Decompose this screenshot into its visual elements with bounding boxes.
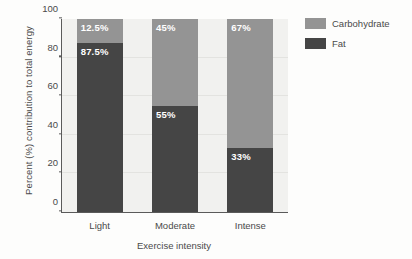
bar-segment-carbohydrate: 45% [152, 19, 198, 106]
legend-swatch [305, 18, 326, 29]
x-tick-label: Moderate [155, 220, 195, 231]
y-tick-label: 100 [42, 3, 58, 14]
y-tick-label: 60 [47, 80, 58, 91]
bar-intense: 67%33% [227, 19, 273, 212]
y-tick-mark [59, 210, 62, 211]
segment-value-label: 45% [156, 22, 176, 33]
plot-area: 020406080100 12.5%87.5%45%55%67%33% Ligh… [61, 19, 288, 213]
y-axis-title: Percent (%) contribution to total energy [23, 11, 34, 211]
y-tick-mark [59, 17, 62, 18]
segment-value-label: 87.5% [81, 46, 109, 57]
x-axis-title: Exercise intensity [61, 240, 287, 251]
legend-label: Fat [332, 38, 346, 49]
x-tick-label: Intense [235, 220, 266, 231]
bar-segment-carbohydrate: 67% [227, 19, 273, 148]
y-tick-label: 20 [47, 157, 58, 168]
bar-segment-fat: 33% [227, 148, 273, 212]
chart-figure: Percent (%) contribution to total energy… [0, 0, 412, 259]
bar-moderate: 45%55% [152, 19, 198, 212]
y-tick-label: 40 [47, 118, 58, 129]
y-tick-label: 80 [47, 41, 58, 52]
segment-value-label: 33% [231, 151, 251, 162]
y-tick-mark [59, 94, 62, 95]
y-tick-mark [59, 171, 62, 172]
legend-swatch [305, 38, 326, 49]
legend-item: Fat [305, 38, 410, 49]
y-tick-mark [59, 56, 62, 57]
bar-segment-fat: 55% [152, 106, 198, 212]
bar-light: 12.5%87.5% [77, 19, 123, 212]
legend: CarbohydrateFat [305, 18, 410, 58]
bar-segment-carbohydrate: 12.5% [77, 19, 123, 43]
y-tick-mark [59, 133, 62, 134]
bar-segment-fat: 87.5% [77, 43, 123, 212]
segment-value-label: 67% [231, 22, 251, 33]
segment-value-label: 55% [156, 109, 176, 120]
legend-item: Carbohydrate [305, 18, 410, 29]
y-tick-label: 0 [53, 196, 58, 207]
legend-label: Carbohydrate [332, 18, 390, 29]
x-tick-label: Light [89, 220, 110, 231]
segment-value-label: 12.5% [81, 22, 109, 33]
